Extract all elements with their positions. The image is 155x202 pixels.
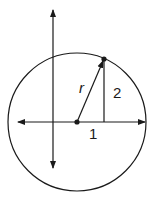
circle-diagram: r 2 1: [0, 0, 155, 202]
center-point: [74, 119, 79, 124]
vertical-leg-label: 2: [113, 84, 121, 101]
circle-point: [101, 56, 106, 61]
horizontal-leg-label: 1: [89, 125, 97, 142]
radius-label: r: [79, 79, 85, 96]
